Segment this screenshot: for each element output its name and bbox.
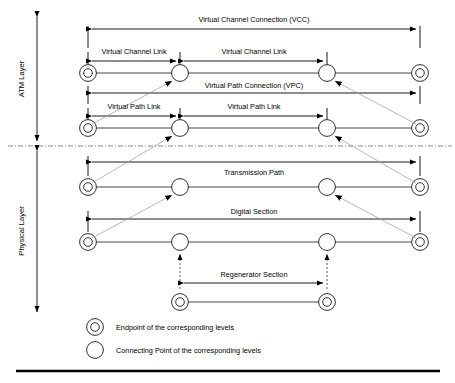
diag-tp-to-vpc-right: [335, 136, 416, 183]
label-physical-layer: Physical Layer: [17, 206, 26, 256]
vcc-connecting-point-left: [172, 65, 189, 82]
rs-endpoint-left: [172, 294, 189, 311]
diag-ds-to-tp-left: [92, 195, 172, 238]
vcc-endpoint-right: [412, 65, 429, 82]
ds-endpoint-left: [80, 234, 97, 251]
legend-text-connecting-point: Connecting Point of the corresponding le…: [116, 346, 261, 355]
label-vcc: Virtual Channel Connection (VCC): [199, 15, 310, 24]
label-vcl-left: Virtual Channel Link: [101, 47, 167, 56]
ds-connecting-point-left: [172, 234, 189, 251]
tp-connecting-point-left: [172, 179, 189, 196]
label-vpl-right: Virtual Path Link: [227, 102, 280, 111]
diag-ds-to-tp-right: [335, 195, 416, 238]
vcc-connecting-point-right: [319, 65, 336, 82]
vcc-endpoint-left: [80, 65, 97, 82]
tp-connecting-point-right: [319, 179, 336, 196]
legend-group: [87, 319, 104, 359]
vpc-connecting-point-left: [172, 120, 189, 137]
diag-tp-to-vpc-left: [92, 136, 172, 183]
label-atm-layer: ATM Layer: [17, 60, 26, 97]
tp-endpoint-right: [412, 179, 429, 196]
tp-endpoint-left: [80, 179, 97, 196]
legend-endpoint-icon: [87, 319, 104, 336]
regenerator-section-row: [172, 254, 336, 310]
label-regenerator-section: Regenerator Section: [221, 270, 288, 279]
vpc-endpoint-left: [80, 120, 97, 137]
diagram-canvas: Virtual Channel Connection (VCC) Virtual…: [0, 0, 455, 383]
vpc-endpoint-right: [412, 120, 429, 137]
atm-layer-diagram: Virtual Channel Connection (VCC) Virtual…: [0, 0, 455, 383]
diag-vpc-to-vcc-right: [335, 81, 416, 124]
label-digital-section: Digital Section: [231, 207, 278, 216]
legend-connecting-point-icon: [87, 342, 104, 359]
ds-endpoint-right: [412, 234, 429, 251]
legend-text-endpoint: Endpoint of the corresponding levels: [116, 323, 234, 332]
label-vpc: Virtual Path Connection (VPC): [205, 81, 303, 90]
ds-connecting-point-right: [319, 234, 336, 251]
rs-endpoint-right: [319, 294, 336, 311]
label-transmission-path: Transmission Path: [224, 168, 284, 177]
vpc-connecting-point-right: [319, 120, 336, 137]
vpc-row: [80, 86, 429, 136]
label-vpl-left: Virtual Path Link: [107, 102, 160, 111]
label-vcl-right: Virtual Channel Link: [221, 47, 287, 56]
